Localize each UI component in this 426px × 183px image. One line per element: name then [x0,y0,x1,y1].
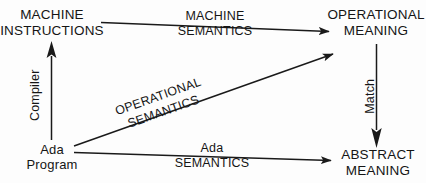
edge-compiler-arrow [47,41,57,140]
node-abstract-meaning: ABSTRACT MEANING [330,147,426,178]
node-abstract-meaning-line2: MEANING [330,163,426,179]
edge-label-machine-semantics-line2: SEMANTICS [150,24,280,39]
node-ada-program-line1: Ada [8,142,96,157]
semantics-diagram: MACHINE INSTRUCTIONS OPERATIONAL MEANING… [0,0,426,183]
edge-label-match-line1: Match [363,63,378,129]
node-machine-instructions-line2: INSTRUCTIONS [0,23,104,39]
node-machine-instructions-line1: MACHINE [0,7,104,23]
edge-label-ada-semantics: Ada SEMANTICS [152,141,272,170]
node-abstract-meaning-line1: ABSTRACT [330,147,426,163]
node-operational-meaning: OPERATIONAL MEANING [326,7,426,38]
edge-label-match: Match [363,63,378,129]
edge-label-machine-semantics-line1: MACHINE [150,9,280,24]
edge-label-ada-semantics-line1: Ada [152,141,272,156]
edge-label-machine-semantics: MACHINE SEMANTICS [150,9,280,38]
edge-label-ada-semantics-line2: SEMANTICS [152,156,272,171]
node-machine-instructions: MACHINE INSTRUCTIONS [0,7,104,38]
node-ada-program-line2: Program [8,157,96,172]
edge-label-compiler: Compiler [28,57,43,133]
node-operational-meaning-line1: OPERATIONAL [326,7,426,23]
node-ada-program: Ada Program [8,142,96,172]
node-operational-meaning-line2: MEANING [326,23,426,39]
edge-label-compiler-line1: Compiler [28,57,43,133]
